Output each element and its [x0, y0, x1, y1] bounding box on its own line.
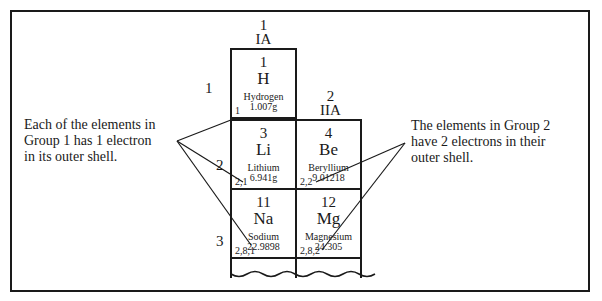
callout-line: Group 1 has 1 electron	[24, 133, 155, 149]
callout-line: outer shell.	[411, 150, 550, 166]
group-2-callout: The elements in Group 2 have 2 electrons…	[411, 118, 550, 166]
wavy-tear-edge	[231, 272, 375, 277]
callout-line: in its outer shell.	[24, 149, 155, 165]
callout-line: Each of the elements in	[24, 117, 155, 133]
callout-line: The elements in Group 2	[411, 118, 550, 134]
group-1-callout: Each of the elements in Group 1 has 1 el…	[24, 117, 155, 165]
callout-line: have 2 electrons in their	[411, 134, 550, 150]
